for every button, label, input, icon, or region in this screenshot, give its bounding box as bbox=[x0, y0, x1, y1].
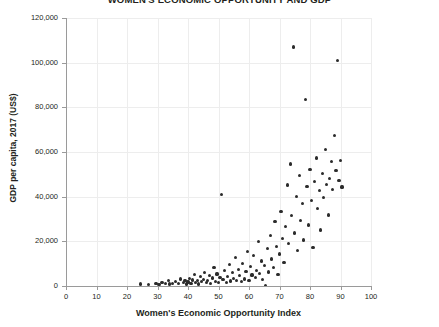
x-tick-label: 80 bbox=[295, 292, 325, 301]
x-tick-mark bbox=[188, 286, 189, 290]
x-tick-mark bbox=[97, 286, 98, 290]
x-tick-label: 90 bbox=[326, 292, 356, 301]
x-tick-label: 40 bbox=[173, 292, 203, 301]
x-tick-mark bbox=[127, 286, 128, 290]
chart-figure: WOMEN'S ECONOMIC OPPORTUNITY AND GDP GDP… bbox=[0, 0, 439, 327]
x-tick-label: 50 bbox=[204, 292, 234, 301]
x-tick-mark bbox=[341, 286, 342, 290]
x-tick-label: 10 bbox=[82, 292, 112, 301]
x-tick-mark bbox=[371, 286, 372, 290]
x-tick-mark bbox=[219, 286, 220, 290]
x-axis-ticks: 0102030405060708090100 bbox=[0, 0, 439, 327]
x-tick-mark bbox=[66, 286, 67, 290]
x-tick-label: 20 bbox=[112, 292, 142, 301]
x-tick-mark bbox=[280, 286, 281, 290]
x-tick-label: 60 bbox=[234, 292, 264, 301]
x-tick-mark bbox=[249, 286, 250, 290]
x-tick-label: 70 bbox=[265, 292, 295, 301]
x-tick-label: 0 bbox=[51, 292, 81, 301]
x-tick-label: 30 bbox=[143, 292, 173, 301]
x-tick-mark bbox=[158, 286, 159, 290]
x-tick-mark bbox=[310, 286, 311, 290]
x-tick-label: 100 bbox=[356, 292, 386, 301]
